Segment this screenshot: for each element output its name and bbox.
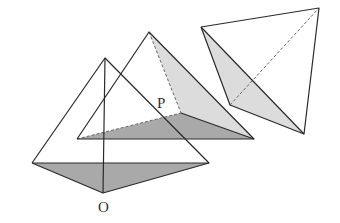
label-O: O xyxy=(98,199,109,215)
label-P: P xyxy=(157,95,165,111)
geometry-figure: P O xyxy=(0,0,340,223)
